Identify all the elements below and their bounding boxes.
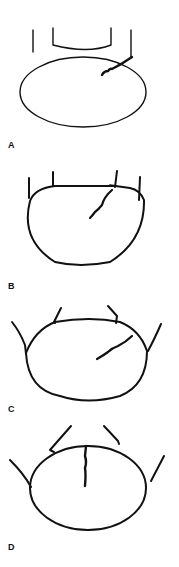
panel-b-drawing [28,171,144,265]
panel-label-d: D [8,542,15,552]
panel-d-drawing [10,426,164,530]
panel-label-c: C [8,404,15,414]
panel-label-a: A [8,140,15,150]
panel-a-drawing [20,28,146,127]
panel-c-drawing [12,306,161,401]
panel-label-b: B [8,281,15,291]
diagram-figure [0,0,179,567]
